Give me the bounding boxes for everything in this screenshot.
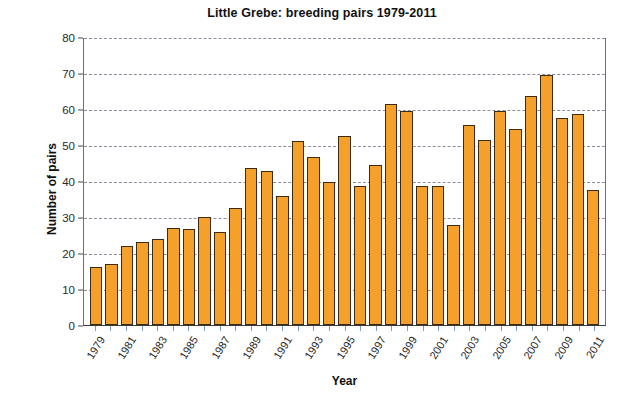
bar[interactable] — [136, 242, 148, 325]
bar[interactable] — [105, 264, 117, 325]
bar[interactable] — [432, 186, 444, 325]
bar[interactable] — [556, 118, 568, 325]
x-tick-label: 2011 — [580, 334, 606, 366]
bar-slot — [430, 38, 446, 325]
bar-slot — [166, 38, 182, 325]
bar-slot — [399, 38, 415, 325]
bar-slot — [275, 38, 291, 325]
bar-slot — [321, 38, 337, 325]
bar-slot — [290, 38, 306, 325]
bar[interactable] — [525, 96, 537, 325]
bar-slot — [306, 38, 322, 325]
bar[interactable] — [292, 141, 304, 325]
bar-slot — [554, 38, 570, 325]
bar-slot — [492, 38, 508, 325]
bar[interactable] — [121, 246, 133, 325]
y-tick-label: 0 — [29, 320, 75, 332]
bar-slot — [383, 38, 399, 325]
bar-slot — [104, 38, 120, 325]
bar[interactable] — [494, 111, 506, 325]
bar[interactable] — [369, 165, 381, 325]
bar[interactable] — [198, 217, 210, 325]
bar-series — [84, 38, 605, 325]
bar-slot — [197, 38, 213, 325]
bar-slot — [135, 38, 151, 325]
x-tick-label: 1997 — [362, 334, 388, 366]
bar-slot — [368, 38, 384, 325]
x-tick-label: 2007 — [518, 334, 544, 366]
bar[interactable] — [509, 129, 521, 325]
x-tick-label: 1983 — [143, 334, 169, 366]
bar[interactable] — [167, 228, 179, 325]
y-tick-mark — [78, 218, 83, 219]
bar[interactable] — [214, 232, 226, 325]
bar[interactable] — [416, 186, 428, 325]
bar-slot — [414, 38, 430, 325]
bar[interactable] — [354, 186, 366, 325]
bar[interactable] — [229, 208, 241, 325]
x-tick-label: 1987 — [206, 334, 232, 366]
bar[interactable] — [478, 140, 490, 325]
bar[interactable] — [587, 190, 599, 325]
x-tick-label: 1981 — [112, 334, 138, 366]
bar[interactable] — [540, 75, 552, 325]
x-tick-label: 1995 — [331, 334, 357, 366]
bar-slot — [228, 38, 244, 325]
bar[interactable] — [245, 168, 257, 325]
y-tick-mark — [78, 74, 83, 75]
bar[interactable] — [323, 182, 335, 325]
bar[interactable] — [307, 157, 319, 325]
y-tick-mark — [78, 182, 83, 183]
x-axis-title: Year — [83, 374, 606, 388]
bar[interactable] — [261, 171, 273, 325]
bar-slot — [586, 38, 602, 325]
x-tick-label: 1999 — [393, 334, 419, 366]
y-tick-mark — [78, 254, 83, 255]
x-tick-label: 1991 — [268, 334, 294, 366]
x-tick-label: 1993 — [299, 334, 325, 366]
x-tick-label: 1979 — [81, 334, 107, 366]
chart-title: Little Grebe: breeding pairs 1979-2011 — [0, 6, 644, 20]
bar-slot — [477, 38, 493, 325]
bar-slot — [243, 38, 259, 325]
bar-slot — [352, 38, 368, 325]
bar-slot — [88, 38, 104, 325]
bar[interactable] — [152, 239, 164, 325]
bar-slot — [508, 38, 524, 325]
bar[interactable] — [385, 104, 397, 325]
bar[interactable] — [400, 111, 412, 325]
chart-container: Little Grebe: breeding pairs 1979-2011 0… — [0, 0, 644, 398]
bar-slot — [461, 38, 477, 325]
y-tick-label: 80 — [29, 32, 75, 44]
bar[interactable] — [338, 136, 350, 325]
x-tick-label: 1985 — [175, 334, 201, 366]
bar-slot — [523, 38, 539, 325]
bar-slot — [119, 38, 135, 325]
bar-slot — [212, 38, 228, 325]
bar-slot — [539, 38, 555, 325]
bar-slot — [259, 38, 275, 325]
bar[interactable] — [463, 125, 475, 325]
bar-slot — [150, 38, 166, 325]
bar-slot — [570, 38, 586, 325]
bar[interactable] — [572, 114, 584, 325]
y-tick-mark — [78, 146, 83, 147]
plot-area — [83, 38, 606, 326]
bar[interactable] — [183, 229, 195, 325]
x-tick-label: 2001 — [424, 334, 450, 366]
x-tick-label: 2005 — [487, 334, 513, 366]
x-tick-label: 2009 — [549, 334, 575, 366]
bar-slot — [446, 38, 462, 325]
bar-slot — [181, 38, 197, 325]
bar-slot — [337, 38, 353, 325]
bar[interactable] — [90, 267, 102, 325]
bar[interactable] — [447, 225, 459, 325]
y-tick-mark — [78, 110, 83, 111]
y-tick-mark — [78, 38, 83, 39]
y-axis-title: Number of pairs — [45, 89, 59, 289]
x-tick-label: 2003 — [455, 334, 481, 366]
y-tick-label: 70 — [29, 68, 75, 80]
bar[interactable] — [276, 196, 288, 325]
y-tick-mark — [78, 290, 83, 291]
x-tick-label: 1989 — [237, 334, 263, 366]
